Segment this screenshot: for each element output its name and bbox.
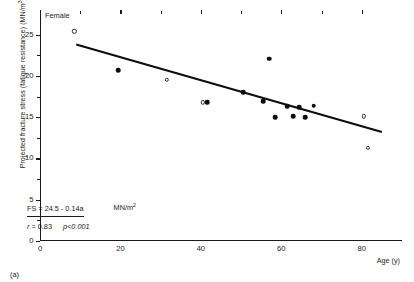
statistics-annotation: FS = 24.5 - 0.14a MN/m2 r = 0.83 p<0.001 <box>27 201 136 233</box>
x-tick-20 <box>120 10 121 15</box>
data-point-open-1 <box>164 78 168 82</box>
correlation-value: = 0.83 <box>31 222 52 231</box>
x-tick-label-20: 20 <box>116 245 124 253</box>
equation-unit: MN/m2 <box>114 201 136 214</box>
x-tick-label-60: 60 <box>277 245 285 253</box>
data-point-open-4 <box>366 146 370 150</box>
y-axis-title-text: Projected fracture stress (fatigue resis… <box>19 3 27 168</box>
equation-unit-text: MN/m <box>114 204 133 213</box>
data-point-filled-10 <box>311 103 316 108</box>
y-tick-25 <box>36 35 41 36</box>
x-tick-0 <box>40 10 41 15</box>
x-tick-80 <box>362 10 363 15</box>
figure-caption: (a) <box>10 270 19 279</box>
x-tick-minor-30 <box>161 11 162 14</box>
y-tick-minor-22.5 <box>37 55 40 56</box>
x-tick-label-40: 40 <box>197 245 205 253</box>
x-tick-label-80: 80 <box>358 245 366 253</box>
p-value: p<0.001 <box>63 222 90 231</box>
correlation-symbol: r <box>27 222 29 231</box>
y-tick-minor-12.5 <box>37 138 40 139</box>
y-tick-label-20: 20 <box>25 72 33 80</box>
figure-panel: Projected fracture stress (fatigue resis… <box>0 0 414 282</box>
y-axis-title-exponent: 3 <box>17 0 23 3</box>
y-tick-0 <box>36 241 41 242</box>
x-tick-40 <box>201 10 202 15</box>
data-point-filled-5 <box>273 115 278 120</box>
x-axis-title: Age (y) <box>377 256 400 265</box>
data-point-filled-6 <box>285 104 290 109</box>
data-point-filled-8 <box>297 105 302 110</box>
data-point-filled-2 <box>241 90 246 95</box>
y-tick-10 <box>36 158 41 159</box>
x-tick-minor-70 <box>322 11 323 14</box>
data-point-filled-9 <box>303 115 308 120</box>
x-axis-line <box>40 240 402 241</box>
y-tick-label-10: 10 <box>25 155 33 163</box>
group-label: Female <box>45 11 70 20</box>
data-point-filled-3 <box>261 99 266 104</box>
data-point-open-0 <box>72 29 76 33</box>
regression-equation-text: FS = 24.5 - 0.14a <box>27 204 84 213</box>
data-point-filled-7 <box>291 114 296 119</box>
x-tick-minor-50 <box>241 11 242 14</box>
y-tick-label-0: 0 <box>29 237 33 245</box>
x-tick-60 <box>281 10 282 15</box>
y-tick-minor-17.5 <box>37 97 40 98</box>
data-point-filled-0 <box>116 68 121 73</box>
y-tick-15 <box>36 117 41 118</box>
data-point-filled-4 <box>267 56 272 61</box>
y-tick-label-25: 25 <box>25 31 33 39</box>
x-tick-minor-10 <box>80 11 81 14</box>
y-tick-20 <box>36 76 41 77</box>
regression-equation: FS = 24.5 - 0.14a <box>27 203 84 217</box>
data-point-filled-1 <box>205 100 210 105</box>
y-tick-minor-7.5 <box>37 179 40 180</box>
equation-unit-exponent: 2 <box>133 202 136 208</box>
x-tick-label-0: 0 <box>38 245 42 253</box>
y-tick-label-15: 15 <box>25 113 33 121</box>
data-point-open-3 <box>362 114 366 118</box>
